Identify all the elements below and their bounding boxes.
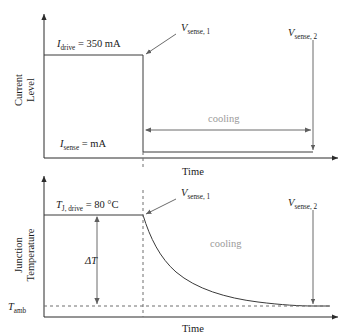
current-y-axis-label-line2: Level [25,78,36,102]
figure-svg: Idrive = 350 mA Isense = mA Vsense, 1 Vs… [0,0,354,336]
cooling-label-bottom: cooling [210,238,242,249]
ambient-temperature-label: Tamb [8,301,27,315]
time-axis-label-bottom: Time [182,323,204,334]
current-level-panel: Idrive = 350 mA Isense = mA Vsense, 1 Vs… [13,14,338,177]
cooling-decay-curve [143,215,313,306]
vsense2-label-top: Vsense, 2 [288,27,318,41]
drive-current-label: Idrive = 350 mA [56,38,121,52]
temperature-y-axis-label-line1: Junction [13,236,24,272]
vsense1-label-top: Vsense, 1 [181,22,211,36]
cooling-label-top: cooling [208,113,240,124]
vsense1-label-bottom: Vsense, 1 [181,187,211,201]
thermal-transient-diagram: Idrive = 350 mA Isense = mA Vsense, 1 Vs… [0,0,354,336]
current-y-axis-label-line1: Current [13,74,24,106]
sense-current-label: Isense = mA [59,138,106,152]
delta-t-label: ΔT [84,255,98,266]
vsense1-pointer-top [146,34,176,54]
drive-temperature-label: TJ, drive = 80 °C [56,199,119,213]
vsense1-pointer-bottom [146,199,176,214]
time-axis-label-top: Time [182,166,204,177]
junction-temperature-panel: TJ, drive = 80 °C Tamb ΔT Vsense, 1 Vsen… [8,176,338,334]
temperature-y-axis-label-line2: Temperature [25,228,36,281]
vsense2-label-bottom: Vsense, 2 [288,197,318,211]
